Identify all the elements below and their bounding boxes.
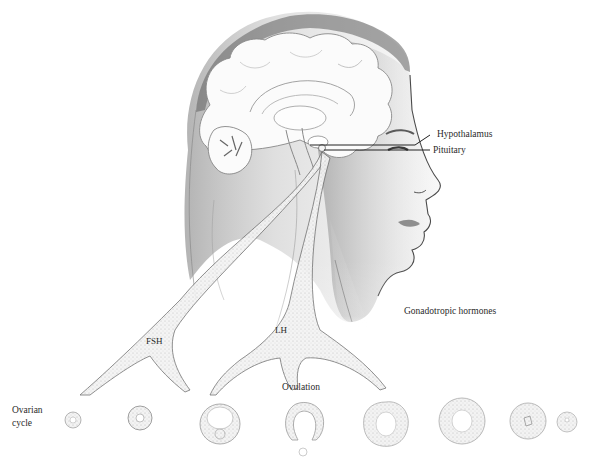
follicle-antral xyxy=(200,404,240,444)
illustration xyxy=(0,0,589,470)
corpus-luteum-early xyxy=(364,402,409,447)
label-pituitary: Pituitary xyxy=(433,145,466,156)
follicle-primordial xyxy=(65,412,81,428)
label-ovarian: Ovarian xyxy=(12,405,43,416)
label-hypothalamus: Hypothalamus xyxy=(437,129,492,140)
label-ovulation: Ovulation xyxy=(282,382,320,393)
follicle-ruptured xyxy=(286,402,324,456)
label-gonadotropic-hormones: Gonadotropic hormones xyxy=(404,306,496,317)
label-fsh: FSH xyxy=(146,336,163,346)
label-lh: LH xyxy=(275,325,287,335)
corpus-luteum xyxy=(439,398,485,444)
hpo-axis-diagram: Hypothalamus Pituitary Gonadotropic horm… xyxy=(0,0,589,470)
corpus-albicans xyxy=(557,412,577,432)
label-cycle: cycle xyxy=(12,418,32,429)
ovarian-cycle-stages xyxy=(65,398,577,456)
follicle-primary xyxy=(128,406,152,430)
corpus-luteum-regressing xyxy=(510,403,546,439)
